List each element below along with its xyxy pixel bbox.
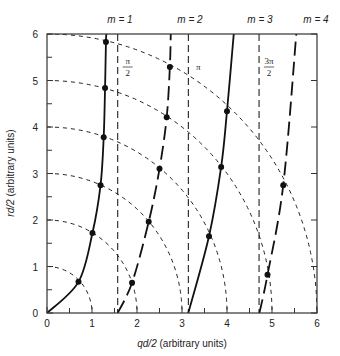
chart: π2π3π2 0123456 0123456 m = 1m = 2m = 3m … xyxy=(0,0,340,356)
data-point xyxy=(76,279,82,285)
data-point xyxy=(102,85,108,91)
y-tick-label: 6 xyxy=(32,29,38,40)
data-point xyxy=(280,182,286,188)
y-tick-label: 5 xyxy=(32,76,38,87)
curve-m4 xyxy=(259,34,296,313)
x-tick-label: 1 xyxy=(89,318,95,329)
y-tick-label: 2 xyxy=(32,215,38,226)
data-point xyxy=(101,134,107,140)
radius-circles xyxy=(47,34,317,313)
data-point xyxy=(206,233,212,239)
data-point xyxy=(157,166,163,172)
reference-label: 3π xyxy=(265,56,275,66)
y-axis-label: rd/2 (arbitrary units) xyxy=(5,129,16,216)
x-tick-label: 2 xyxy=(134,318,140,329)
y-tick-label: 0 xyxy=(32,308,38,319)
data-point xyxy=(129,280,135,286)
x-axis: 0123456 xyxy=(44,307,320,329)
mode-labels: m = 1m = 2m = 3m = 4 xyxy=(107,14,329,25)
x-axis-label: qd/2 (arbitrary units) xyxy=(137,338,226,349)
x-tick-label: 3 xyxy=(179,318,185,329)
data-point xyxy=(164,114,170,120)
data-point xyxy=(167,64,173,70)
radius-circle xyxy=(47,34,317,313)
data-point xyxy=(265,272,271,278)
data-point xyxy=(98,182,104,188)
radius-circle xyxy=(47,174,182,314)
x-tick-label: 0 xyxy=(44,318,50,329)
reference-label: 2 xyxy=(267,68,272,78)
y-tick-label: 3 xyxy=(32,169,38,180)
data-point xyxy=(89,230,95,236)
radius-circle xyxy=(47,127,227,313)
y-tick-label: 4 xyxy=(32,122,38,133)
mode-label: m = 4 xyxy=(303,14,329,25)
x-tick-label: 6 xyxy=(314,318,320,329)
reference-label: 2 xyxy=(125,68,130,78)
data-point xyxy=(224,108,230,114)
data-point xyxy=(103,39,109,45)
plot-frame xyxy=(47,34,317,313)
reference-lines: π2π3π2 xyxy=(118,34,274,313)
x-tick-label: 4 xyxy=(224,318,230,329)
x-tick-label: 5 xyxy=(269,318,275,329)
mode-label: m = 1 xyxy=(107,14,132,25)
mode-label: m = 3 xyxy=(247,14,273,25)
data-point xyxy=(218,164,224,170)
reference-label: π xyxy=(196,62,201,72)
y-tick-label: 1 xyxy=(32,262,38,273)
plot-border xyxy=(47,34,317,313)
reference-label: π xyxy=(125,56,130,66)
radius-circle xyxy=(47,267,92,314)
mode-label: m = 2 xyxy=(177,14,203,25)
y-axis: 0123456 xyxy=(32,29,317,319)
data-point xyxy=(146,219,152,225)
